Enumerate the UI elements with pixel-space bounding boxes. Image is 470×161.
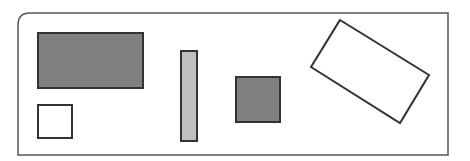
large-dark-rectangle	[38, 33, 143, 88]
small-white-square	[38, 105, 72, 138]
medium-dark-square	[236, 77, 280, 122]
tall-light-bar	[181, 51, 197, 141]
shapes-diagram	[0, 0, 470, 161]
rotated-white-rectangle	[311, 20, 429, 123]
